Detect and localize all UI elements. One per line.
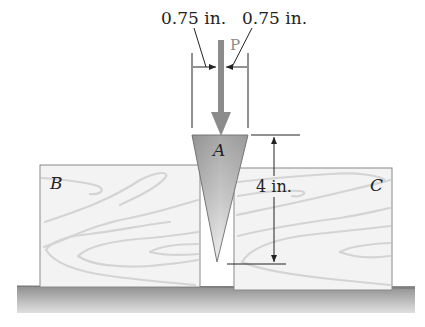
height-label: 4 in.	[256, 177, 292, 196]
dim-label-right: 0.75 in.	[242, 8, 307, 28]
load-arrow-p	[211, 40, 231, 136]
block-c-label: C	[370, 175, 383, 195]
block-b-label: B	[49, 173, 63, 193]
block-b	[40, 165, 200, 287]
load-label: P	[230, 36, 240, 54]
dim-label-left: 0.75 in.	[161, 8, 226, 28]
wedge-label: A	[211, 140, 225, 160]
wedge-diagram: 0.75 in. 0.75 in. P A B C 4 in.	[0, 0, 425, 327]
